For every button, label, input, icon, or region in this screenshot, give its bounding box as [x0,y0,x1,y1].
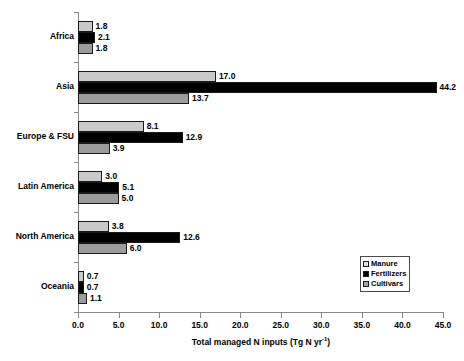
x-tick-mark [200,313,201,318]
bar-fertilizers-north-america [78,232,180,243]
bar-group: 3.812.66.0 [78,221,443,254]
category-label-asia: Asia [0,81,74,91]
category-label-africa: Africa [0,31,74,41]
bar-value-label: 3.0 [105,171,117,182]
x-tick-mark [321,313,322,318]
bar-fertilizers-africa [78,32,95,43]
x-tick-label: 25.0 [272,320,289,330]
bar-value-label: 3.9 [113,143,125,154]
x-tick-mark [78,313,79,318]
bar-value-label: 1.8 [96,43,108,54]
bar-manure-europe-fsu [78,121,144,132]
bar-fertilizers-oceania [78,282,84,293]
bar-manure-africa [78,21,93,32]
bar-value-label: 12.9 [186,132,203,143]
legend-swatch-icon [363,271,369,277]
legend-swatch-icon [363,261,369,267]
bar-manure-latin-america [78,171,102,182]
x-tick-mark [159,313,160,318]
bar-value-label: 8.1 [147,121,159,132]
x-tick-mark [443,313,444,318]
bar-value-label: 2.1 [98,32,110,43]
x-tick-label: 40.0 [394,320,411,330]
bar-group: 8.112.93.9 [78,121,443,154]
bar-fertilizers-latin-america [78,182,119,193]
legend-item-fertilizers[interactable]: Fertilizers [363,269,406,279]
x-axis-title-suffix: ) [327,337,330,347]
legend-item-manure[interactable]: Manure [363,259,406,269]
bar-cultivars-latin-america [78,193,119,204]
bar-value-label: 0.7 [87,271,99,282]
bar-fertilizers-asia [78,82,437,93]
bar-group: 1.82.11.8 [78,21,443,54]
category-label-north-america: North America [0,231,74,241]
x-axis-title-main: Total managed N inputs (Tg N yr [192,337,322,347]
bar-group: 17.044.213.7 [78,71,443,104]
legend-label: Fertilizers [371,269,406,279]
legend-label: Cultivars [371,279,403,289]
x-tick-mark [119,313,120,318]
chart-legend: ManureFertilizersCultivars [360,256,410,292]
bar-value-label: 5.0 [122,193,134,204]
bar-manure-asia [78,71,216,82]
category-label-oceania: Oceania [0,281,74,291]
bar-value-label: 1.1 [90,293,102,304]
x-tick-label: 15.0 [191,320,208,330]
x-tick-mark [240,313,241,318]
bar-fertilizers-europe-fsu [78,132,183,143]
bar-value-label: 17.0 [219,71,236,82]
bar-cultivars-europe-fsu [78,143,110,154]
legend-item-cultivars[interactable]: Cultivars [363,279,406,289]
x-tick-mark [402,313,403,318]
x-tick-label: 45.0 [435,320,452,330]
x-axis-title: Total managed N inputs (Tg N yr-1) [78,336,444,347]
legend-swatch-icon [363,281,369,287]
bar-cultivars-oceania [78,293,87,304]
x-tick-label: 0.0 [72,320,84,330]
bar-value-label: 6.0 [130,243,142,254]
x-tick-label: 35.0 [354,320,371,330]
bar-value-label: 0.7 [87,282,99,293]
x-tick-label: 5.0 [113,320,125,330]
legend-label: Manure [371,259,398,269]
x-axis-line [78,312,444,313]
bar-value-label: 1.8 [96,21,108,32]
x-tick-label: 30.0 [313,320,330,330]
category-label-europe-fsu: Europe & FSU [0,131,74,141]
bar-value-label: 12.6 [183,232,200,243]
bar-cultivars-africa [78,43,93,54]
bar-chart-figure: 0.05.010.015.020.025.030.035.040.045.0 A… [0,0,464,361]
bar-value-label: 3.8 [112,221,124,232]
x-tick-mark [281,313,282,318]
bar-cultivars-asia [78,93,189,104]
x-tick-label: 20.0 [232,320,249,330]
x-tick-label: 10.0 [151,320,168,330]
bar-value-label: 44.2 [440,82,457,93]
bar-value-label: 13.7 [192,93,209,104]
bar-cultivars-north-america [78,243,127,254]
bar-manure-oceania [78,271,84,282]
category-label-latin-america: Latin America [0,181,74,191]
x-tick-mark [362,313,363,318]
bar-value-label: 5.1 [122,182,134,193]
bar-manure-north-america [78,221,109,232]
bar-group: 3.05.15.0 [78,171,443,204]
